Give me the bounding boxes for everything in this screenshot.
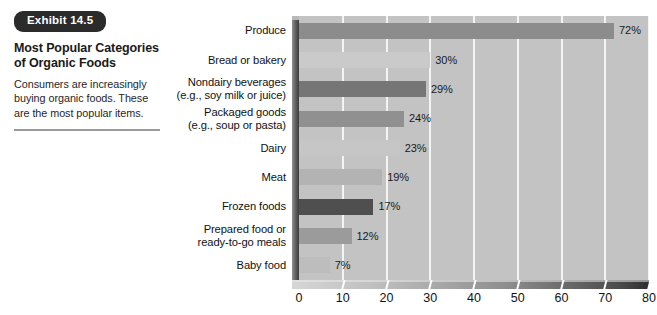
bar-value-label: 30% [435,55,457,66]
bar [299,140,400,156]
bar-value-label: 23% [405,143,427,154]
bar-value-label: 24% [409,113,431,124]
bar [299,199,373,215]
bar-value-label: 72% [619,25,641,36]
x-axis-tick-label: 30 [423,292,437,305]
exhibit-number-badge: Exhibit 14.5 [14,11,106,32]
bar-row: 23% [299,140,649,156]
exhibit-description: Consumers are increasingly buying organi… [14,77,161,120]
caption-column: Exhibit 14.5 Most Popular Categories of … [14,10,161,131]
category-label: Dairy [260,142,286,155]
bar-value-label: 19% [387,172,409,183]
x-axis-tick-labels: 01020304050607080 [299,292,649,312]
bar [299,228,352,244]
exhibit-title: Most Popular Categories of Organic Foods [14,41,161,72]
bar [299,81,426,97]
category-label: Meat [262,171,286,184]
bar-row: 29% [299,81,649,97]
y-axis-spine-highlight [292,16,299,20]
bar [299,111,404,127]
x-axis-tick-label: 0 [296,292,303,305]
bar-row: 7% [299,257,649,273]
bar [299,257,330,273]
x-axis-tick-label: 80 [642,292,656,305]
bar [299,169,382,185]
bar-row: 30% [299,52,649,68]
bar [299,23,614,39]
caption-divider [14,129,160,131]
bar-row: 19% [299,169,649,185]
category-label: Nondairy beverages (e.g., soy milk or ju… [177,76,286,102]
bar-value-label: 7% [335,260,351,271]
bar [299,52,430,68]
exhibit-figure: Exhibit 14.5 Most Popular Categories of … [0,0,657,315]
bar-value-label: 17% [378,201,400,212]
plot-wrapper: 72%30%29%24%23%19%17%12%7% [292,16,649,280]
x-axis-tick-label: 50 [511,292,525,305]
category-label: Frozen foods [222,200,286,213]
category-label: Bread or bakery [208,54,286,67]
category-label: Packaged goods (e.g., soup or pasta) [188,106,286,132]
bar-value-label: 29% [431,84,453,95]
x-axis-tick-label: 10 [336,292,350,305]
y-axis-spine [292,16,299,280]
bar-value-label: 12% [357,231,379,242]
chart-rows: ProduceBread or bakeryNondairy beverages… [161,16,649,280]
category-label: Produce [245,24,286,37]
category-label: Baby food [237,259,286,272]
bar-row: 72% [299,23,649,39]
category-label-column: ProduceBread or bakeryNondairy beverages… [161,16,292,280]
bar-row: 12% [299,228,649,244]
x-axis-tick-label: 60 [555,292,569,305]
bar-chart: ProduceBread or bakeryNondairy beverages… [161,14,649,302]
plot-area: 72%30%29%24%23%19%17%12%7% [299,16,649,280]
x-axis-tick-label: 20 [380,292,394,305]
bar-row: 17% [299,199,649,215]
x-axis-tick-label: 40 [467,292,481,305]
x-axis-tick-label: 70 [598,292,612,305]
category-label: Prepared food or ready-to-go meals [198,223,286,249]
bar-row: 24% [299,111,649,127]
